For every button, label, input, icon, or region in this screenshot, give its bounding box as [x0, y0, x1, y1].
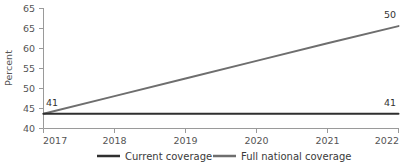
y-axis-tick-label: 60	[23, 43, 35, 54]
chart-legend: Current coverage Full national coverage	[97, 151, 351, 162]
legend-label-current-coverage: Current coverage	[125, 151, 212, 162]
line-chart: 65 65 60 55 50 45 40 Percent 2017 2018 2…	[0, 0, 413, 167]
data-label-full-national-end: 50	[384, 9, 396, 20]
y-axis: 65 65 60 55 50 45 40 Percent	[3, 3, 44, 134]
data-label-current-end: 41	[384, 97, 396, 108]
legend-item-current-coverage[interactable]: Current coverage	[97, 151, 212, 162]
y-axis-tick-label: 45	[23, 103, 35, 114]
y-axis-tick-label: 40	[23, 123, 35, 134]
series-line-full-national-coverage	[44, 26, 399, 114]
x-axis-tick-label: 2021	[315, 135, 339, 146]
y-axis-tick-label: 65	[23, 23, 35, 34]
y-axis-tick-label: 65	[23, 3, 35, 14]
x-axis-tick-label: 2022	[375, 135, 399, 146]
legend-item-full-national-coverage[interactable]: Full national coverage	[213, 151, 351, 162]
y-axis-title: Percent	[3, 50, 14, 86]
x-axis-tick-label: 2017	[43, 135, 67, 146]
y-axis-tick-label: 55	[23, 63, 35, 74]
x-axis-tick-label: 2020	[244, 135, 268, 146]
data-label-start: 41	[46, 97, 58, 108]
legend-label-full-national-coverage: Full national coverage	[241, 151, 351, 162]
x-axis-tick-label: 2019	[173, 135, 197, 146]
x-axis-tick-label: 2018	[102, 135, 126, 146]
x-axis: 2017 2018 2019 2020 2021 2022	[43, 129, 399, 147]
y-axis-tick-label: 50	[23, 83, 35, 94]
chart-canvas: 65 65 60 55 50 45 40 Percent 2017 2018 2…	[0, 0, 413, 167]
